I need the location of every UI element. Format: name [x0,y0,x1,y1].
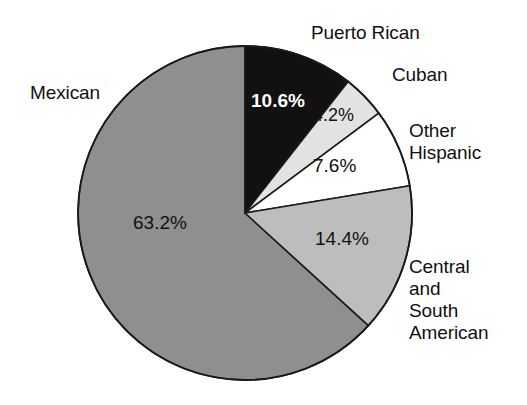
pie-label-central-and-south-american: Central and South American [409,256,488,344]
pie-chart-page: Puerto Rican Cuban Other Hispanic Centra… [0,0,527,405]
pie-value-cuban: 4.2% [313,105,354,126]
pie-value-other-hispanic: 7.6% [313,155,356,177]
pie-label-mexican: Mexican [30,82,100,104]
pie-value-central-and-south-american: 14.4% [315,228,369,250]
pie-label-puerto-rican: Puerto Rican [311,22,420,44]
pie-label-cuban: Cuban [392,64,448,86]
pie-value-puerto-rican: 10.6% [251,90,305,112]
pie-value-mexican: 63.2% [133,212,187,234]
pie-chart-graphic [0,0,527,405]
pie-label-other-hispanic: Other Hispanic [409,120,481,164]
